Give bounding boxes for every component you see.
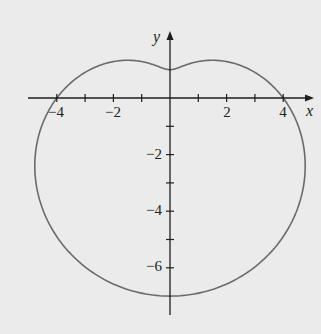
x-axis: −4 −2 2 4 x [28, 94, 314, 120]
y-tick-label-neg4: −4 [146, 202, 162, 218]
x-tick-label-4: 4 [279, 104, 287, 120]
x-axis-label: x [305, 102, 313, 119]
x-tick-label-neg2: −2 [105, 104, 121, 120]
x-tick-label-neg4: −4 [48, 104, 64, 120]
y-tick-label-neg6: −6 [146, 258, 162, 274]
y-axis-arrow-icon [167, 31, 174, 40]
y-tick-label-neg2: −2 [146, 146, 162, 162]
x-axis-arrow-icon [305, 95, 314, 102]
x-tick-label-2: 2 [223, 104, 231, 120]
y-axis-label: y [151, 28, 161, 46]
polar-plot: −4 −2 2 4 x −2 −4 −6 y [0, 0, 321, 334]
y-axis: −2 −4 −6 y [146, 28, 174, 315]
